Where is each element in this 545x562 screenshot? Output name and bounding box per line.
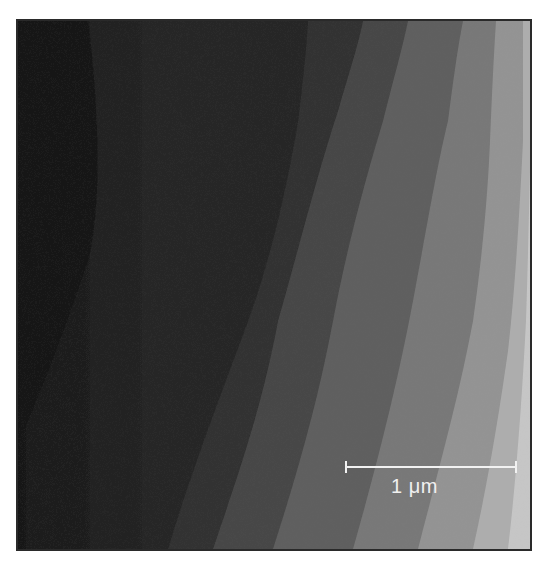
- scale-bar-label: 1 μm: [391, 475, 438, 498]
- micrograph-frame: 1 μm: [16, 19, 532, 551]
- scale-bar-left-tick: [345, 461, 347, 473]
- scale-bar-line: [345, 466, 517, 468]
- scale-bar: [345, 461, 517, 473]
- scale-bar-right-tick: [515, 461, 517, 473]
